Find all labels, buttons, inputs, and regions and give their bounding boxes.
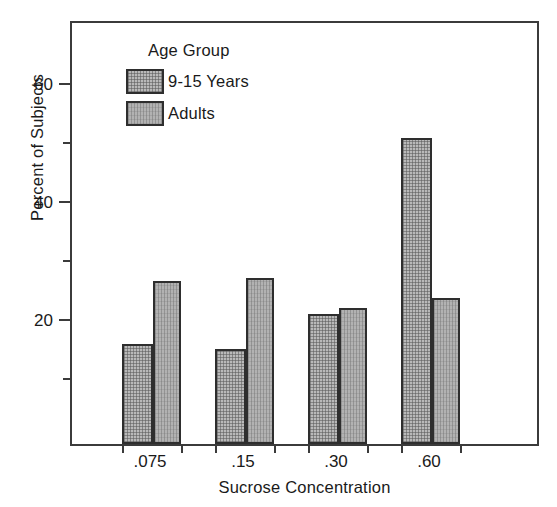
y-tick-label-20: 20: [34, 311, 53, 331]
legend-item-9-15-years: 9-15 Years: [126, 69, 356, 94]
x-tick-4: [308, 444, 310, 453]
x-tick-2: [215, 444, 217, 453]
x-tick-3: [274, 444, 276, 453]
y-tick-label-40: 40: [34, 193, 53, 213]
x-tick-label-075: .075: [133, 452, 166, 472]
legend-swatch-9-15-years: [126, 69, 164, 94]
x-axis-title: Sucrose Concentration: [70, 478, 539, 497]
bar-adults-30: [339, 308, 367, 444]
y-tick-40: 40: [59, 201, 72, 203]
y-tick-60: 60: [59, 83, 72, 85]
y-tick-label-60: 60: [34, 75, 53, 95]
legend-item-adults: Adults: [126, 101, 356, 126]
y-tick-50: [63, 142, 72, 144]
y-tick-10: [63, 378, 72, 380]
legend-title: Age Group: [148, 41, 356, 60]
bar-adults-15: [246, 278, 274, 444]
bar-9-15-years-30: [308, 314, 339, 444]
bar-chart-figure: Percent of Subjects 60 40 20: [0, 0, 557, 507]
x-tick-0: [122, 444, 124, 453]
plot-area: 60 40 20 Age Gro: [70, 21, 539, 446]
y-tick-30: [63, 260, 72, 262]
y-axis-title: Percent of Subjects: [28, 23, 47, 273]
legend-label-adults: Adults: [168, 104, 215, 123]
x-tick-label-30: .30: [324, 452, 348, 472]
legend: Age Group 9-15 Years Adults: [126, 41, 356, 133]
bar-adults-60: [432, 298, 460, 444]
legend-swatch-adults: [126, 101, 164, 126]
bar-adults-075: [153, 281, 181, 444]
bar-9-15-years-60: [401, 138, 432, 444]
x-tick-1: [181, 444, 183, 453]
x-tick-5: [367, 444, 369, 453]
x-tick-label-60: .60: [417, 452, 441, 472]
y-tick-20: 20: [59, 319, 72, 321]
x-tick-label-15: .15: [231, 452, 255, 472]
x-tick-7: [460, 444, 462, 453]
bar-9-15-years-075: [122, 344, 153, 444]
x-tick-6: [401, 444, 403, 453]
legend-label-9-15-years: 9-15 Years: [168, 72, 249, 91]
bar-9-15-years-15: [215, 349, 246, 444]
